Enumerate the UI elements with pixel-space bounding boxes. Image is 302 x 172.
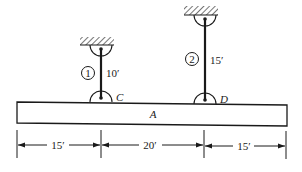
rod-2-length: 15′ xyxy=(210,54,223,66)
dimension-2: 20′ xyxy=(102,139,203,151)
point-d-label: D xyxy=(219,93,228,105)
point-c-label: C xyxy=(116,91,124,103)
beam-diagram: 1 10′ 2 15′ C D A 15′ 20′ 15′ xyxy=(0,0,302,172)
dimension-1: 15′ xyxy=(18,139,100,151)
dimension-3: 15′ xyxy=(205,140,285,152)
ceiling-support-2 xyxy=(184,6,218,26)
svg-text:15′: 15′ xyxy=(237,140,250,152)
svg-text:15′: 15′ xyxy=(51,139,64,151)
svg-text:20′: 20′ xyxy=(143,139,156,151)
hatch-icon xyxy=(80,37,114,45)
beam-label: A xyxy=(149,108,157,120)
rod-1-id: 1 xyxy=(85,67,91,79)
rod-1-length: 10′ xyxy=(106,67,119,79)
hatch-icon xyxy=(184,6,218,15)
ceiling-support-1 xyxy=(80,37,114,56)
rod-2-id: 2 xyxy=(189,53,195,65)
